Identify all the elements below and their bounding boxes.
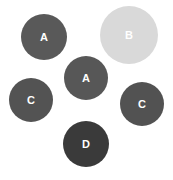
node-c-left: C [9,78,53,122]
diagram-canvas: A B A C C D [0,0,173,180]
node-d-bottom: D [63,121,109,167]
node-c-right: C [120,82,164,126]
node-label: C [138,99,146,110]
node-a-center: A [64,56,108,100]
node-a-top-left: A [21,14,67,60]
node-b-top-right: B [100,6,158,64]
node-label: C [27,95,35,106]
node-label: A [40,32,48,43]
node-label: A [82,73,90,84]
node-label: D [82,139,90,150]
node-label: B [125,30,133,41]
